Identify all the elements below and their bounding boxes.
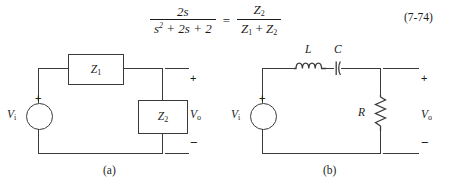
- wire-b-c-to-node: [341, 68, 381, 69]
- resistor-symbol: [373, 95, 388, 131]
- output-terminal-b-bottom: [383, 153, 419, 154]
- output-a-polarity-plus: +: [190, 72, 196, 84]
- impedance-z1-label: Z1: [91, 63, 101, 77]
- caption-b: (b): [323, 164, 336, 176]
- circuit-diagram-b: L C R + Vi + − Vo (b): [225, 0, 456, 184]
- impedance-z2-label: Z2: [158, 110, 168, 124]
- wire-a-right-lower: [162, 131, 163, 154]
- wire-a-top-right: [122, 68, 163, 69]
- voltage-source-b: [250, 103, 277, 130]
- wire-a-left-lower: [38, 128, 39, 154]
- output-b-polarity-plus: +: [421, 72, 427, 84]
- resistor-label: R: [358, 106, 365, 118]
- source-a-label: Vi: [7, 108, 16, 122]
- wire-a-bottom: [38, 153, 163, 154]
- circuit-diagram-a: Z1 Z2 + Vi + − Vo (a): [0, 0, 225, 184]
- wire-b-left-lower: [262, 128, 263, 154]
- wire-b-right-lower: [380, 130, 381, 154]
- source-b-polarity-plus: +: [259, 92, 265, 104]
- output-a-polarity-minus: −: [190, 136, 198, 149]
- output-terminal-a-bottom: [165, 153, 189, 154]
- wire-b-right-upper: [380, 68, 381, 96]
- output-b-polarity-minus: −: [421, 136, 429, 149]
- voltage-source-a: [26, 103, 53, 130]
- inductor-symbol: [294, 59, 326, 71]
- wire-a-top-left: [38, 68, 68, 69]
- capacitor-label: C: [334, 43, 342, 55]
- source-a-polarity-plus: +: [35, 92, 41, 104]
- wire-a-right-upper: [162, 68, 163, 101]
- output-terminal-a-top: [165, 68, 189, 69]
- impedance-z1-box: Z1: [68, 54, 124, 85]
- caption-a: (a): [103, 164, 116, 176]
- output-terminal-b-top: [383, 68, 419, 69]
- wire-b-bottom: [262, 153, 381, 154]
- figure-page: 2s s2 + 2s + 2 = Z2 Z1 + Z2 (7-74) Z1: [0, 0, 456, 184]
- inductor-label: L: [305, 43, 311, 55]
- output-b-label: Vo: [421, 108, 432, 122]
- source-b-label: Vi: [231, 108, 240, 122]
- wire-b-top-left: [262, 68, 294, 69]
- output-a-label: Vo: [190, 108, 201, 122]
- impedance-z2-box: Z2: [138, 100, 188, 134]
